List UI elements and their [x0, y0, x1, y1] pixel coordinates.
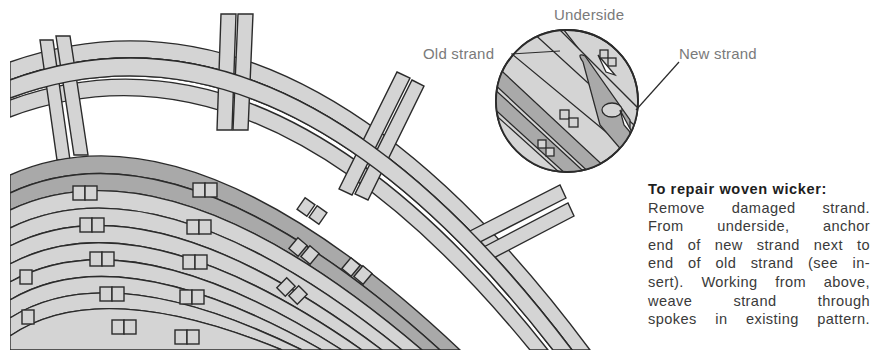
new-strand-label: New strand: [679, 45, 757, 62]
instruction-line: weave strand through: [648, 292, 870, 311]
basket-weave: [10, 14, 590, 350]
repair-instructions: To repair woven wicker: Remove damaged s…: [648, 180, 870, 329]
instruction-line: Remove damaged strand.: [648, 199, 870, 218]
instruction-line: sert). Working from above,: [648, 273, 870, 292]
new-strand-leader: [636, 62, 679, 110]
inset-title: Underside: [554, 6, 624, 23]
instruction-line: spokes in existing pattern.: [648, 310, 870, 329]
instruction-line: From underside, anchor: [648, 217, 870, 236]
old-strand-label: Old strand: [423, 45, 494, 62]
instructions-heading: To repair woven wicker:: [648, 180, 870, 199]
instruction-line: end of old strand (see in-: [648, 254, 870, 273]
instruction-line: end of new strand next to: [648, 236, 870, 255]
